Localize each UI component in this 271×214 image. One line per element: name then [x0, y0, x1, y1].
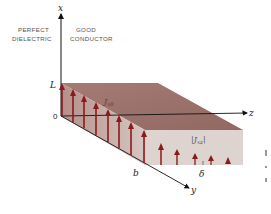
delta-label: δ — [199, 169, 204, 179]
page-edge-marks — [265, 150, 267, 182]
origin-label: 0 — [53, 112, 58, 121]
label-conductor: CONDUCTOR — [70, 35, 113, 42]
conductor-slab — [61, 83, 243, 165]
b-label: b — [133, 168, 139, 178]
label-dielectric: DIELECTRIC — [12, 35, 52, 42]
label-perfect: PERFECT — [18, 26, 49, 33]
L-label: L — [49, 80, 56, 90]
skin-effect-diagram: PERFECT DIELECTRIC GOOD CONDUCTOR x z y … — [0, 0, 271, 214]
y-axis-label: y — [190, 185, 197, 195]
label-good: GOOD — [76, 26, 96, 33]
z-axis-label: z — [248, 108, 254, 118]
x-axis-label: x — [58, 3, 63, 13]
